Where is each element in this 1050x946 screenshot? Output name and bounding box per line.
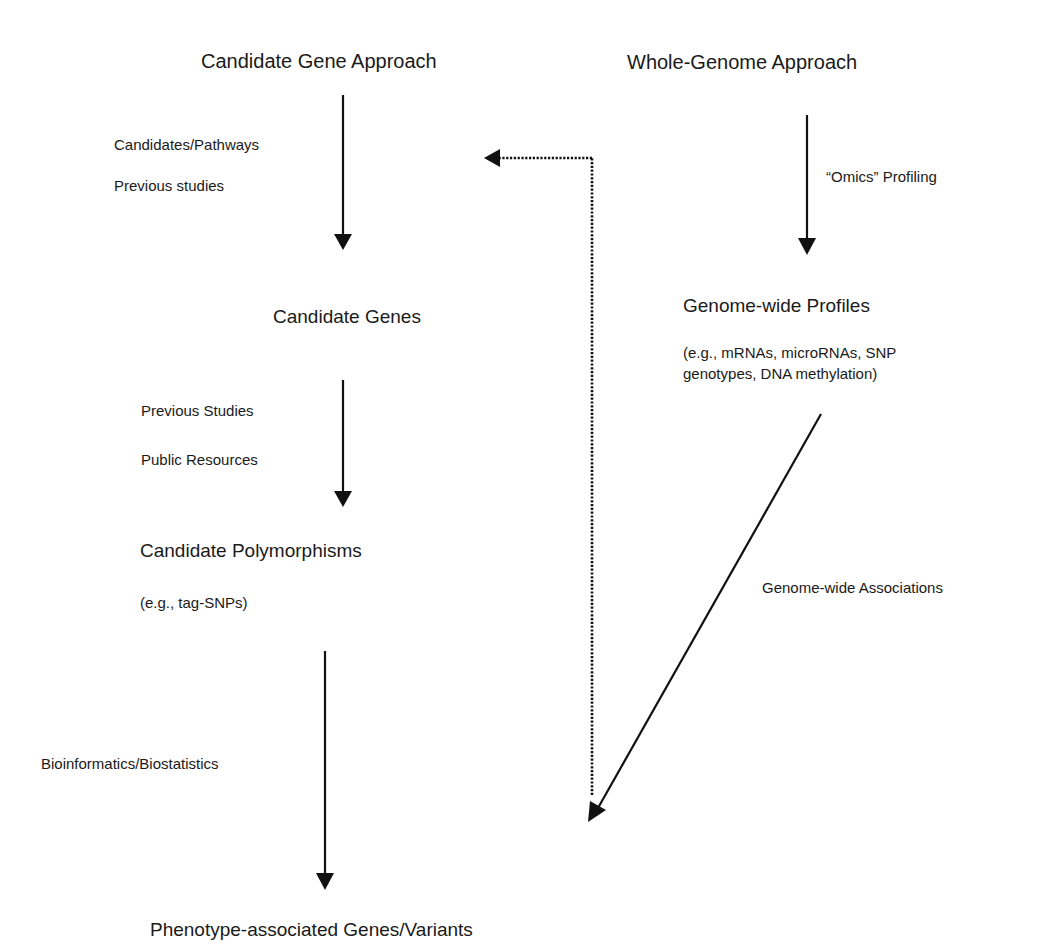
candidate-genes-node: Candidate Genes: [273, 307, 421, 326]
candidate-polymorphisms-example: (e.g., tag-SNPs): [140, 595, 248, 610]
note-previous-studies: Previous studies: [114, 178, 224, 193]
diagram-canvas: Candidate Gene Approach Candidates/Pathw…: [0, 0, 1050, 946]
phenotype-associated-result-node: Phenotype-associated Genes/Variants: [150, 920, 473, 939]
note-public-resources: Public Resources: [141, 452, 258, 467]
arrow-approach-to-genes: [334, 95, 352, 250]
genome-wide-profiles-example-line2: genotypes, DNA methylation): [683, 366, 877, 381]
arrow-profiles-to-result: [588, 414, 821, 822]
whole-genome-approach-title: Whole-Genome Approach: [627, 52, 857, 72]
candidate-gene-approach-title: Candidate Gene Approach: [201, 51, 437, 71]
note-bioinformatics-biostatistics: Bioinformatics/Biostatistics: [41, 756, 219, 771]
genome-wide-profiles-example-line1: (e.g., mRNAs, microRNAs, SNP: [683, 345, 896, 360]
candidate-polymorphisms-node: Candidate Polymorphisms: [140, 541, 362, 560]
arrow-wholegenome-to-profiles: [798, 115, 816, 255]
arrow-genes-to-polymorphisms: [334, 380, 352, 507]
arrow-feedback-dotted: [484, 149, 592, 795]
note-previous-studies-2: Previous Studies: [141, 403, 254, 418]
note-candidates-pathways: Candidates/Pathways: [114, 137, 259, 152]
arrow-polymorphisms-to-result: [316, 651, 334, 890]
genome-wide-profiles-node: Genome-wide Profiles: [683, 296, 870, 315]
note-omics-profiling: “Omics” Profiling: [826, 169, 937, 184]
note-genome-wide-associations: Genome-wide Associations: [762, 580, 943, 595]
